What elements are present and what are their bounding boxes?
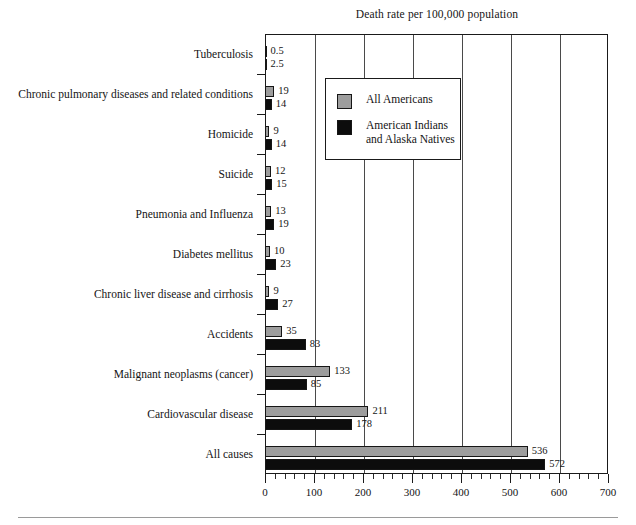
- legend-entry: All Americans: [337, 93, 433, 109]
- x-tick-minor: [530, 474, 531, 479]
- legend-swatch-natives: [337, 120, 352, 135]
- x-tick-major: [265, 474, 266, 483]
- x-tick-minor: [549, 474, 550, 479]
- x-tick-minor: [373, 474, 374, 479]
- bar-row: 1023: [265, 234, 608, 274]
- x-tick-minor: [569, 474, 570, 479]
- y-tick: [257, 114, 266, 115]
- x-tick-minor: [285, 474, 286, 479]
- bar-value-label: 133: [334, 365, 350, 376]
- x-tick-label: 500: [502, 486, 519, 498]
- bar-natives: [265, 419, 352, 430]
- y-tick: [257, 74, 266, 75]
- category-label: Suicide: [0, 168, 253, 181]
- bar-value-label: 19: [278, 85, 289, 96]
- x-tick-minor: [539, 474, 540, 479]
- category-label: Accidents: [0, 328, 253, 341]
- bar-value-label: 9: [273, 125, 278, 136]
- legend-swatch-all-americans: [337, 94, 352, 109]
- x-tick-label: 600: [551, 486, 568, 498]
- bar-value-label: 85: [311, 378, 322, 389]
- y-axis-labels: TuberculosisChronic pulmonary diseases a…: [0, 34, 253, 474]
- category-label: Pneumonia and Influenza: [0, 208, 253, 221]
- bar-value-label: 15: [276, 178, 287, 189]
- category-label: Diabetes mellitus: [0, 248, 253, 261]
- bar-value-label: 2.5: [271, 58, 284, 69]
- y-tick: [257, 354, 266, 355]
- bar-natives: [265, 99, 272, 110]
- x-tick-major: [412, 474, 413, 483]
- x-tick-label: 400: [453, 486, 470, 498]
- bar-value-label: 83: [310, 338, 321, 349]
- x-tick-label: 200: [355, 486, 372, 498]
- x-tick-major: [559, 474, 560, 483]
- x-tick-minor: [353, 474, 354, 479]
- category-label: Homicide: [0, 128, 253, 141]
- legend-entry: American Indiansand Alaska Natives: [337, 119, 455, 146]
- y-tick: [257, 154, 266, 155]
- bar-natives: [265, 339, 306, 350]
- x-tick-minor: [422, 474, 423, 479]
- x-tick-minor: [598, 474, 599, 479]
- x-tick-major: [510, 474, 511, 483]
- x-axis: 0100200300400500600700: [265, 474, 608, 520]
- bar-value-label: 211: [372, 405, 387, 416]
- bar-natives: [265, 299, 278, 310]
- bar-all-americans: [265, 406, 368, 417]
- bar-natives: [265, 259, 276, 270]
- x-tick-label: 100: [306, 486, 323, 498]
- y-axis-ticks: [257, 34, 266, 474]
- bar-value-label: 9: [273, 285, 278, 296]
- bar-row: 1319: [265, 194, 608, 234]
- bar-value-label: 10: [274, 245, 285, 256]
- x-tick-major: [461, 474, 462, 483]
- x-tick-minor: [383, 474, 384, 479]
- bottom-divider: [18, 517, 618, 518]
- chart-legend: All AmericansAmerican Indiansand Alaska …: [325, 78, 461, 160]
- bar-row: 211178: [265, 394, 608, 434]
- x-tick-minor: [294, 474, 295, 479]
- category-label: Cardiovascular disease: [0, 408, 253, 421]
- x-tick-minor: [343, 474, 344, 479]
- x-tick-minor: [471, 474, 472, 479]
- x-tick-minor: [324, 474, 325, 479]
- x-tick-minor: [334, 474, 335, 479]
- bar-row: 927: [265, 274, 608, 314]
- bar-all-americans: [265, 366, 330, 377]
- x-tick-major: [314, 474, 315, 483]
- bar-row: 3583: [265, 314, 608, 354]
- bar-value-label: 178: [356, 418, 372, 429]
- x-tick-minor: [520, 474, 521, 479]
- bar-all-americans: [265, 86, 274, 97]
- bar-value-label: 13: [275, 205, 286, 216]
- bar-all-americans: [265, 326, 282, 337]
- x-tick-minor: [481, 474, 482, 479]
- y-tick: [257, 394, 266, 395]
- x-tick-major: [363, 474, 364, 483]
- bar-natives: [265, 139, 272, 150]
- bar-natives: [265, 379, 307, 390]
- bar-value-label: 35: [286, 325, 297, 336]
- x-tick-label: 0: [262, 486, 268, 498]
- x-tick-major: [608, 474, 609, 483]
- bar-natives: [265, 219, 274, 230]
- x-tick-minor: [500, 474, 501, 479]
- legend-label: American Indiansand Alaska Natives: [366, 119, 455, 146]
- bar-row: 1215: [265, 154, 608, 194]
- legend-label: All Americans: [366, 93, 433, 107]
- category-label: Malignant neoplasms (cancer): [0, 368, 253, 381]
- bar-value-label: 536: [532, 445, 548, 456]
- bar-value-label: 14: [276, 98, 287, 109]
- bar-natives: [265, 459, 545, 470]
- bar-row: 13385: [265, 354, 608, 394]
- x-tick-minor: [402, 474, 403, 479]
- bar-value-label: 572: [549, 458, 565, 469]
- bar-value-label: 23: [280, 258, 291, 269]
- category-label: Chronic liver disease and cirrhosis: [0, 288, 253, 301]
- x-tick-minor: [490, 474, 491, 479]
- y-tick: [257, 434, 266, 435]
- x-tick-minor: [275, 474, 276, 479]
- bar-value-label: 19: [278, 218, 289, 229]
- x-tick-minor: [432, 474, 433, 479]
- y-tick: [257, 234, 266, 235]
